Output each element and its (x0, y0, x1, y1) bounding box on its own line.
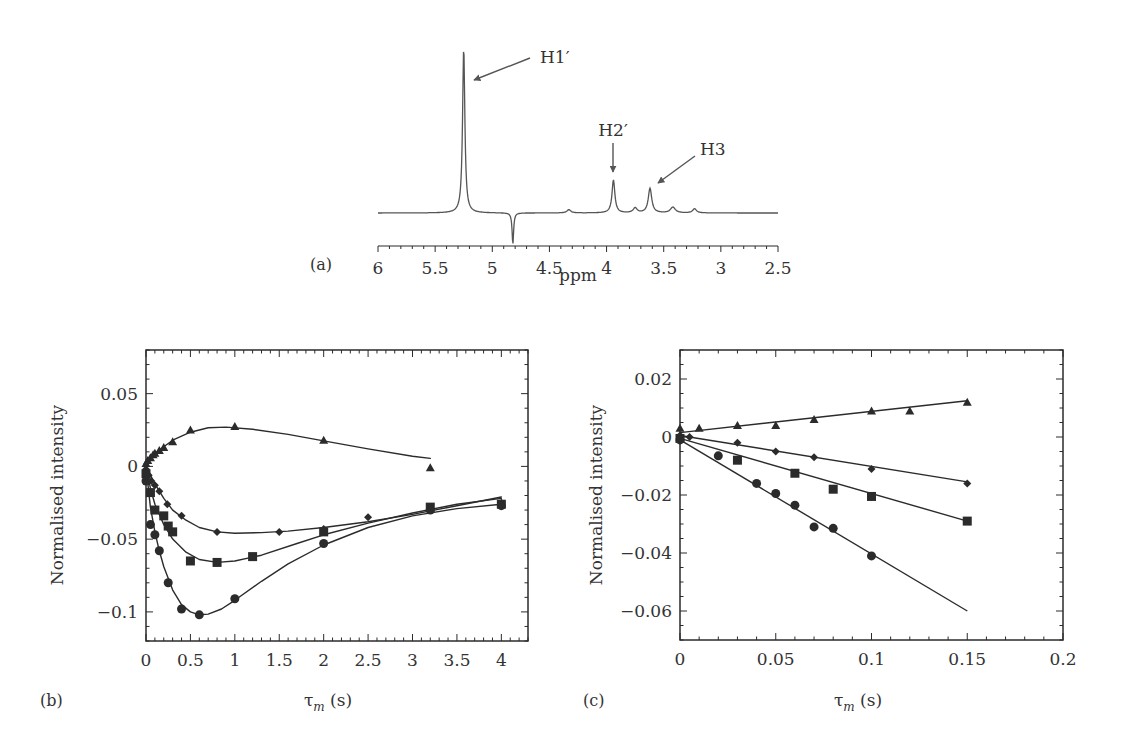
panel-c-x-tick-label: 0.2 (1049, 649, 1076, 669)
panel-b-chart: 00.511.522.533.540.050−0.05−0.1 (b) Norm… (40, 350, 528, 714)
panel-c-y-tick-label: −0.02 (620, 485, 672, 505)
panel-b-point-circles (319, 539, 328, 548)
spectrum-x-axis-title: ppm (559, 265, 597, 285)
panel-c-point-circles (810, 522, 819, 531)
panel-c-point-triangles (695, 424, 704, 432)
panel-b-point-circles (146, 520, 155, 529)
panel-c-x-tick-label: 0 (675, 649, 686, 669)
panel-c-point-triangles (733, 421, 742, 429)
peak-annotations: H1′H2′H3 (474, 47, 726, 183)
panel-b-point-squares (150, 506, 159, 515)
panel-b-x-tick-label: 1.5 (266, 650, 293, 670)
panel-b-x-axis-title-symbol: τ (304, 690, 313, 710)
panel-b-point-circles (195, 610, 204, 619)
panel-c-point-diamonds (810, 453, 818, 461)
panel-c-point-circles (790, 501, 799, 510)
panel-b-x-axis-title-subscript: m (313, 700, 324, 714)
panel-b-point-diamonds (275, 528, 283, 536)
panel-b-x-tick-label: 4 (496, 650, 507, 670)
panel-b-point-triangles (230, 422, 239, 430)
panel-b-point-circles (142, 476, 151, 485)
panel-c-point-squares (963, 517, 972, 526)
panel-c-fit-circles (680, 440, 967, 611)
panel-b-frame (146, 350, 528, 641)
panel-b-fit-diamonds (146, 466, 501, 533)
peak-annotation-label: H2′ (598, 120, 628, 140)
panel-b-point-circles (497, 501, 506, 510)
spectrum-x-tick-label: 4 (601, 258, 612, 278)
panel-b-x-axis-title: τm (s) (304, 690, 352, 714)
panel-c-point-circles (829, 524, 838, 533)
panel-b-point-squares (168, 527, 177, 536)
spectrum-x-tick-label: 3 (715, 258, 726, 278)
panel-b-x-tick-label: 2.5 (355, 650, 382, 670)
panel-b-plot-area: 00.511.522.533.540.050−0.05−0.1 (86, 350, 528, 670)
panel-c-point-diamonds (772, 448, 780, 456)
panel-c-x-tick-label: 0.05 (757, 649, 795, 669)
panel-b-point-circles (230, 594, 239, 603)
panel-label-b: (b) (40, 691, 63, 710)
panel-b-point-circles (177, 604, 186, 613)
panel-b-point-squares (319, 527, 328, 536)
panel-c-chart: 00.050.10.150.20.020−0.02−0.04−0.06 (c) … (583, 350, 1077, 714)
panel-b-x-tick-label: 0 (141, 650, 152, 670)
panel-b-point-squares (186, 556, 195, 565)
panel-b-point-triangles (426, 463, 435, 471)
panel-c-x-axis-title-symbol: τ (834, 690, 843, 710)
panel-c-plot-area: 00.050.10.150.20.020−0.02−0.04−0.06 (620, 350, 1077, 669)
panel-b-y-tick-label: 0 (127, 456, 138, 476)
panel-b-point-squares (159, 511, 168, 520)
panel-b-point-diamonds (155, 487, 163, 495)
spectrum-x-tick-label: 5.5 (422, 258, 449, 278)
panel-b-point-circles (155, 546, 164, 555)
panel-b-y-tick-label: −0.05 (86, 529, 138, 549)
panel-b-point-diamonds (364, 513, 372, 521)
peak-annotation-label: H3 (700, 139, 726, 159)
panel-b-x-tick-label: 3.5 (443, 650, 470, 670)
panel-b-y-tick-label: −0.1 (97, 602, 138, 622)
panel-b-x-tick-label: 1 (229, 650, 240, 670)
panel-c-fit-diamonds (680, 436, 967, 482)
panel-c-fit-triangles (680, 401, 967, 433)
panel-b-point-diamonds (213, 528, 221, 536)
panel-label-c: (c) (583, 691, 604, 710)
panel-c-fit-squares (680, 438, 967, 521)
annotation-arrow (658, 156, 695, 183)
panel-b-point-squares (146, 488, 155, 497)
panel-c-y-tick-label: −0.06 (620, 601, 672, 621)
panel-b-point-circles (150, 530, 159, 539)
peak-annotation-label: H1′ (540, 47, 570, 67)
panel-c-x-axis-title: τm (s) (834, 690, 882, 714)
panel-b-y-axis-title: Normalised intensity (47, 404, 67, 585)
annotation-arrow (474, 58, 530, 80)
panel-c-point-triangles (676, 424, 685, 432)
panel-b-point-squares (248, 552, 257, 561)
spectrum-x-tick-label: 6 (373, 258, 384, 278)
figure: 65.554.543.532.5 ppm (a) H1′H2′H3 00.511… (0, 0, 1122, 744)
panel-c-x-tick-label: 0.15 (948, 649, 986, 669)
panel-c-point-circles (752, 479, 761, 488)
panel-c-x-axis-title-unit: (s) (855, 690, 882, 710)
panel-c-y-axis-title: Normalised intensity (586, 404, 606, 585)
panel-c-point-circles (676, 435, 685, 444)
panel-c-x-axis-title-subscript: m (843, 700, 854, 714)
panel-b-x-axis-title-unit: (s) (325, 690, 352, 710)
panel-c-point-squares (829, 485, 838, 494)
panel-c-point-diamonds (963, 479, 971, 487)
panel-b-x-tick-label: 3 (407, 650, 418, 670)
panel-c-point-circles (867, 551, 876, 560)
panel-c-point-circles (714, 451, 723, 460)
panel-c-y-tick-label: −0.04 (620, 543, 672, 563)
panel-b-point-circles (164, 578, 173, 587)
spectrum-x-tick-label: 2.5 (764, 258, 791, 278)
panel-c-point-squares (867, 492, 876, 501)
panel-a-spectrum: 65.554.543.532.5 ppm (a) H1′H2′H3 (310, 47, 792, 285)
panel-b-point-squares (213, 558, 222, 567)
spectrum-x-tick-label: 3.5 (650, 258, 677, 278)
panel-b-point-circles (426, 506, 435, 515)
panel-c-point-squares (790, 469, 799, 478)
panel-b-x-tick-label: 2 (318, 650, 329, 670)
panel-b-y-tick-label: 0.05 (100, 384, 138, 404)
panel-b-point-triangles (186, 426, 195, 434)
panel-c-point-circles (771, 489, 780, 498)
